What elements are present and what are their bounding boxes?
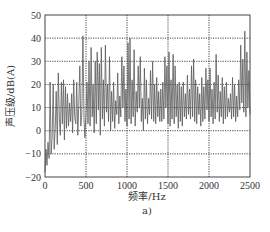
x-tick-label: 2000: [199, 180, 219, 191]
data-series-line: [45, 31, 250, 172]
grid-lines: [45, 15, 250, 177]
y-tick-label: 50: [31, 10, 41, 21]
chart-figure: −20−1001020304050 05001000150020002500 频…: [0, 0, 270, 232]
x-axis-ticks: 05001000150020002500: [43, 180, 261, 191]
y-axis-ticks: −20−1001020304050: [25, 10, 41, 183]
y-tick-label: 10: [31, 102, 41, 113]
spectrum-line: [45, 31, 250, 172]
y-tick-label: 30: [31, 56, 41, 67]
y-tick-label: −20: [25, 172, 41, 183]
y-tick-label: 40: [31, 33, 41, 44]
y-tick-label: −10: [25, 148, 41, 159]
y-tick-label: 0: [36, 125, 41, 136]
subfigure-label: a): [142, 205, 152, 216]
y-tick-label: 20: [31, 79, 41, 90]
x-tick-label: 0: [43, 180, 48, 191]
x-tick-label: 500: [79, 180, 94, 191]
plot-frame: [45, 15, 250, 177]
x-tick-label: 2500: [240, 180, 260, 191]
x-tick-label: 1000: [117, 180, 137, 191]
y-axis-label: 声压级/dB(A): [4, 65, 16, 127]
x-axis-label: 频率/Hz: [128, 190, 165, 202]
x-tick-label: 1500: [158, 180, 178, 191]
